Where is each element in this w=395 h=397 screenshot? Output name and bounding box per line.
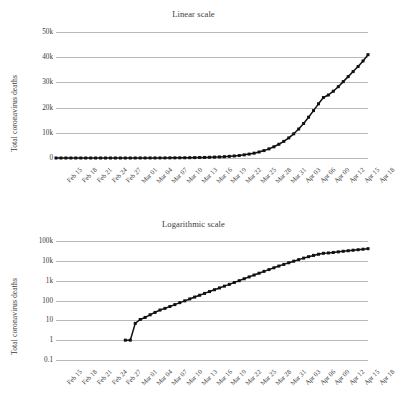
log-y-tick-label: 1 xyxy=(49,336,53,344)
log-x-tick-label: Apr 18 xyxy=(377,368,395,386)
linear-scale-panel: Linear scale Total coronavirus deaths 01… xyxy=(0,0,387,200)
log-x-tick-label: Apr 12 xyxy=(348,368,366,386)
linear-x-tick-label: Feb 27 xyxy=(125,166,143,184)
linear-y-axis-label: Total coronavirus deaths xyxy=(10,75,19,152)
linear-x-tick-label: Apr 18 xyxy=(377,166,395,184)
linear-plot-area: 010k20k30k40k50k xyxy=(56,32,368,158)
linear-x-tick-label: Mar 13 xyxy=(199,166,218,185)
linear-y-tick-label: 0 xyxy=(49,154,53,162)
log-x-tick-label: Feb 15 xyxy=(65,368,83,386)
linear-x-axis-labels: Feb 15Feb 18Feb 21Feb 24Feb 27Mar 01Mar … xyxy=(0,166,387,200)
linear-x-tick-label: Mar 28 xyxy=(274,166,293,185)
linear-y-tick-label: 40k xyxy=(42,53,53,61)
log-y-tick-label: 1k xyxy=(46,277,53,285)
linear-x-tick-label: Mar 10 xyxy=(184,166,203,185)
linear-x-tick-label: Mar 31 xyxy=(288,166,307,185)
log-chart-title: Logarithmic scale xyxy=(0,219,387,229)
log-x-axis-labels: Feb 15Feb 18Feb 21Feb 24Feb 27Mar 01Mar … xyxy=(0,368,387,397)
linear-x-tick-label: Feb 24 xyxy=(110,166,128,184)
log-x-tick-label: Mar 01 xyxy=(140,368,159,387)
linear-y-tick-label: 10k xyxy=(42,129,53,137)
log-x-tick-label: Feb 24 xyxy=(110,368,128,386)
linear-data-series xyxy=(56,32,368,158)
log-x-tick-label: Mar 31 xyxy=(288,368,307,387)
log-x-tick-label: Mar 13 xyxy=(199,368,218,387)
log-x-tick-label: Feb 21 xyxy=(95,368,113,386)
linear-x-tick-label: Feb 21 xyxy=(95,166,113,184)
log-y-tick-label: 10k xyxy=(42,257,53,265)
linear-x-tick-label: Apr 12 xyxy=(348,166,366,184)
log-y-tick-label: 0.1 xyxy=(44,356,53,364)
linear-x-tick-label: Mar 25 xyxy=(259,166,278,185)
linear-x-tick-label: Feb 15 xyxy=(65,166,83,184)
linear-y-tick-label: 50k xyxy=(42,28,53,36)
log-x-tick-label: Mar 10 xyxy=(184,368,203,387)
log-y-axis-label: Total coronavirus deaths xyxy=(10,278,19,355)
log-x-tick-label: Mar 22 xyxy=(244,368,263,387)
linear-x-tick-label: Mar 01 xyxy=(140,166,159,185)
log-gridline xyxy=(56,360,368,361)
log-x-tick-label: Mar 07 xyxy=(170,368,189,387)
linear-x-tick-label: Mar 22 xyxy=(244,166,263,185)
log-data-series xyxy=(56,241,368,360)
linear-y-tick-label: 20k xyxy=(42,104,53,112)
log-x-tick-label: Feb 27 xyxy=(125,368,143,386)
linear-chart-title: Linear scale xyxy=(0,9,387,19)
log-x-tick-label: Mar 04 xyxy=(155,368,174,387)
log-scale-panel: Logarithmic scale Total coronavirus deat… xyxy=(0,200,387,397)
linear-x-tick-label: Mar 07 xyxy=(170,166,189,185)
linear-x-tick-label: Feb 18 xyxy=(80,166,98,184)
log-x-tick-label: Mar 28 xyxy=(274,368,293,387)
linear-x-tick-label: Apr 15 xyxy=(363,166,381,184)
log-plot-area: 0.11101001k10k100k xyxy=(56,241,368,360)
log-x-tick-label: Mar 25 xyxy=(259,368,278,387)
log-y-tick-label: 100 xyxy=(42,297,53,305)
log-x-tick-label: Apr 15 xyxy=(363,368,381,386)
linear-x-tick-label: Mar 04 xyxy=(155,166,174,185)
log-y-tick-label: 10 xyxy=(46,316,53,324)
linear-y-tick-label: 30k xyxy=(42,78,53,86)
log-y-tick-label: 100k xyxy=(39,237,53,245)
log-x-tick-label: Feb 18 xyxy=(80,368,98,386)
